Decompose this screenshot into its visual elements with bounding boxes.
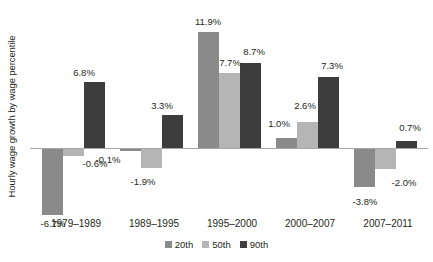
bar-90th[interactable] [240,63,261,148]
data-label-90th: 8.7% [233,46,275,57]
bar-group: -3.8% -2.0% 0.7% [350,6,426,210]
bar-90th[interactable] [84,82,105,148]
legend-label-50th: 50th [212,240,231,250]
legend-item-50th[interactable]: 50th [202,240,231,250]
data-label-50th: 2.6% [284,100,326,111]
bar-20th[interactable] [276,138,297,148]
legend-swatch-90th-icon [240,241,247,248]
bar-20th[interactable] [42,149,63,215]
data-label-90th: 3.3% [141,100,183,111]
data-label-90th: 6.8% [63,67,105,78]
plot-area: -6.7% -0.6% 6.8% -0.1% -1.9% 3.3% 11.9% … [30,6,428,210]
legend-item-90th[interactable]: 90th [240,240,269,250]
bar-20th[interactable] [120,149,141,151]
data-label-50th: -1.9% [122,176,164,187]
data-label-20th: 11.9% [187,16,229,27]
data-label-90th: 7.3% [311,60,353,71]
category-axis: 1979–1989 1989–1995 1995–2000 2000–2007 … [30,218,428,234]
legend-label-20th: 20th [175,240,194,250]
y-axis-title-label: Hourly wage growth by wage percentile [6,35,17,197]
bar-50th[interactable] [219,73,240,148]
bar-50th[interactable] [141,149,162,168]
data-label-50th: 7.7% [209,57,251,68]
data-label-20th: 1.0% [258,118,300,129]
category-label: 1979–1989 [38,218,114,229]
category-label: 1995–2000 [194,218,270,229]
legend-item-20th[interactable]: 20th [165,240,194,250]
data-label-20th: -3.8% [344,196,386,207]
legend-swatch-20th-icon [165,241,172,248]
category-label: 2000–2007 [272,218,348,229]
bar-20th[interactable] [198,32,219,148]
bar-chart: Hourly wage growth by wage percentile -6… [0,0,433,262]
bar-20th[interactable] [354,149,375,187]
data-label-90th: 0.7% [389,122,431,133]
chart-legend: 20th 50th 90th [0,240,433,250]
bar-50th[interactable] [375,149,396,169]
category-label: 2007–2011 [350,218,426,229]
bar-group: -0.1% -1.9% 3.3% [116,6,192,210]
bar-90th[interactable] [162,115,183,148]
category-label: 1989–1995 [116,218,192,229]
legend-label-90th: 90th [250,240,269,250]
bar-50th[interactable] [297,122,318,148]
y-axis-title: Hourly wage growth by wage percentile [0,0,22,232]
data-label-20th: -0.1% [87,154,129,165]
bar-90th[interactable] [396,141,417,148]
bar-50th[interactable] [63,149,84,156]
bar-90th[interactable] [318,77,339,148]
data-label-50th: -2.0% [383,177,425,188]
bar-group: 11.9% 7.7% 8.7% [194,6,270,210]
legend-swatch-50th-icon [202,241,209,248]
bar-group: -6.7% -0.6% 6.8% [38,6,114,210]
bar-group: 1.0% 2.6% 7.3% [272,6,348,210]
